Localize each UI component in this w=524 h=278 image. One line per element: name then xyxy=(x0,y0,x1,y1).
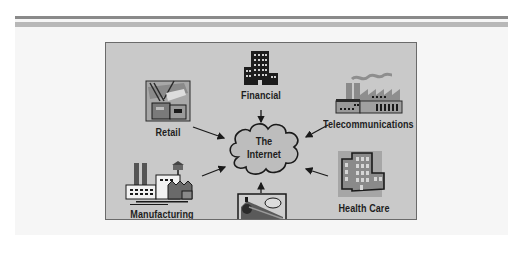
internet-label-line2: Internet xyxy=(229,148,299,160)
retail-store-icon xyxy=(144,79,192,123)
internet-label-line1: The xyxy=(229,135,299,147)
manufacturing-label: Manufacturing xyxy=(129,208,194,220)
office-building-icon xyxy=(241,49,281,87)
arrow-manufacturing xyxy=(202,167,225,176)
internet-industries-diagram: The Internet Financial xyxy=(105,42,417,220)
travel-node: Travel xyxy=(237,193,287,220)
retail-node: Retail xyxy=(144,79,198,141)
header-rule-dark xyxy=(15,16,508,19)
manufacturing-plant-icon xyxy=(124,161,200,205)
telecommunications-label: Telecommunications xyxy=(323,118,409,130)
header-rule-light xyxy=(15,22,508,27)
arrow-health-care xyxy=(306,169,328,176)
financial-node: Financial xyxy=(241,49,281,105)
factory-icon xyxy=(332,71,412,115)
internet-node: The Internet xyxy=(224,117,304,183)
telecommunications-node: Telecommunications xyxy=(316,71,416,133)
retail-label: Retail xyxy=(147,126,188,138)
financial-label: Financial xyxy=(239,89,284,101)
health-care-node: Health Care xyxy=(328,149,400,213)
hospital-building-icon xyxy=(328,149,400,199)
manufacturing-node: Manufacturing xyxy=(124,161,200,219)
train-icon xyxy=(237,193,287,220)
health-care-label: Health Care xyxy=(333,202,395,214)
